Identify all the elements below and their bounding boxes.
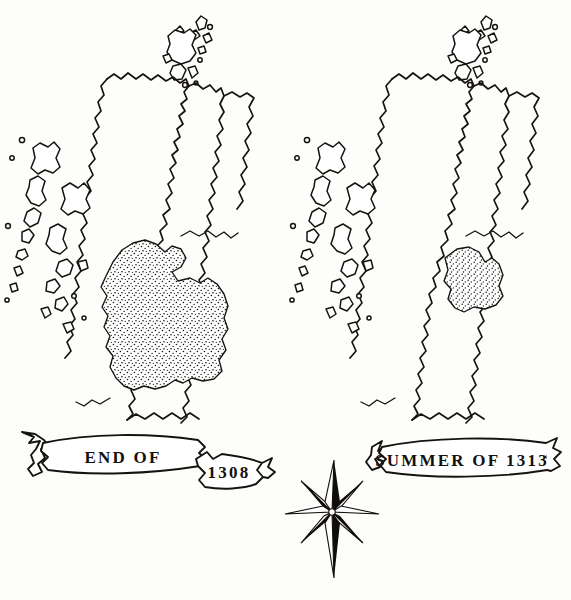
outer-hebrides-right	[290, 137, 345, 302]
mainland-coast-right	[392, 73, 474, 420]
moray-firth-right	[509, 92, 539, 209]
held-territory-left	[101, 240, 228, 390]
outer-hebrides-left	[5, 137, 60, 302]
banner-right-curl	[546, 438, 561, 471]
banner-left-curl	[262, 458, 275, 478]
banner-left: END OF 1308	[22, 432, 275, 489]
banner-left-label: END OF	[85, 448, 162, 467]
compass-hub	[329, 509, 335, 515]
compass-rose	[285, 460, 379, 578]
illustration-sheet: END OF 1308 SUMMER OF 1313	[0, 0, 571, 600]
map-panel-1313	[290, 16, 539, 423]
banner-right-label: SUMMER OF 1313	[375, 451, 549, 470]
solway-right	[361, 398, 395, 406]
inner-hebrides-left	[41, 183, 90, 333]
southern-coast-right	[412, 413, 484, 420]
banner-right: SUMMER OF 1313	[366, 438, 561, 477]
banner-left-year: 1308	[208, 463, 251, 482]
inner-firth-left	[181, 231, 238, 238]
held-territory-right	[444, 247, 503, 312]
inner-firth-right	[466, 231, 523, 238]
map-panel-1308	[5, 16, 254, 423]
southern-coast-left	[127, 413, 199, 420]
inner-hebrides-right	[326, 183, 375, 333]
solway-left	[76, 398, 110, 406]
map-illustration: END OF 1308 SUMMER OF 1313	[0, 0, 571, 600]
moray-firth-left	[224, 92, 254, 209]
